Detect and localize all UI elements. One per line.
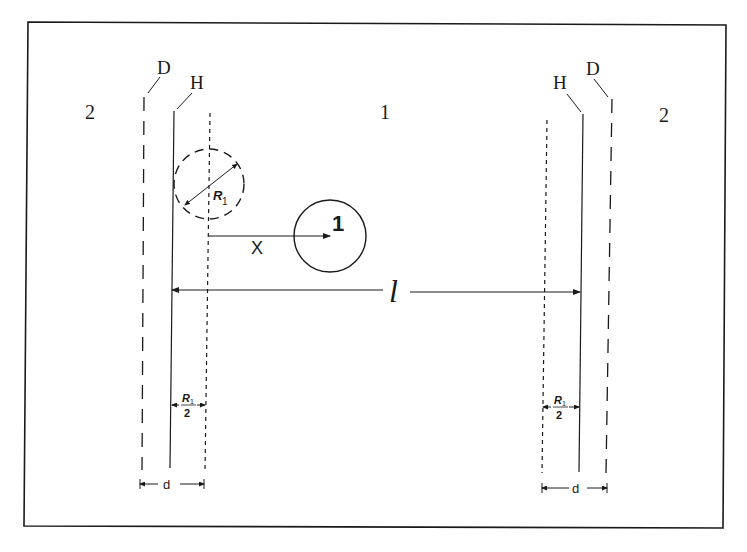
particle-label: 1	[332, 211, 344, 236]
right-H-line	[579, 114, 583, 472]
left-D-label: D	[157, 57, 171, 78]
region-label-left: 2	[85, 101, 95, 123]
left-half-radius-sub: 1	[190, 398, 194, 405]
region-label-center: 1	[380, 101, 390, 123]
left-dotted-line	[205, 113, 210, 472]
left-D-line	[142, 97, 144, 470]
radius-arrow	[185, 164, 237, 205]
right-D-leader	[594, 79, 608, 97]
left-H-leader	[177, 93, 192, 109]
distance-label: X	[251, 238, 263, 258]
outer-frame	[24, 22, 726, 528]
right-D-line	[606, 99, 612, 474]
left-boundary: D H R 1 2 d	[140, 57, 210, 492]
right-thickness-label: d	[572, 481, 579, 496]
right-half-radius-sub: 1	[562, 400, 566, 407]
left-H-label: H	[190, 72, 204, 93]
right-half-radius-denominator: 2	[556, 409, 562, 421]
right-H-label: H	[553, 72, 567, 93]
left-D-leader	[148, 77, 160, 93]
exclusion-circle: R 1	[174, 149, 244, 219]
length-label: l	[389, 273, 398, 309]
right-D-label: D	[586, 58, 600, 79]
right-boundary: H D R 1 2 d	[542, 58, 612, 496]
left-half-radius-numerator: R	[182, 392, 190, 404]
right-dotted-line	[542, 120, 547, 473]
diagram-canvas: 2 1 2 D H R 1 2 d R 1 X 1 l	[0, 0, 747, 552]
right-H-leader	[567, 94, 581, 112]
left-thickness-label: d	[163, 477, 170, 492]
left-half-radius-denominator: 2	[184, 407, 190, 419]
radius-label-sub: 1	[222, 196, 228, 207]
right-half-radius-numerator: R	[554, 394, 562, 406]
region-label-right: 2	[659, 104, 669, 126]
